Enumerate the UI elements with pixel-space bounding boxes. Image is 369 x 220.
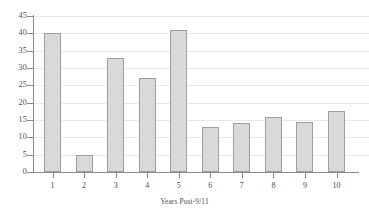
y-axis-tick-label: 10 <box>1 133 27 141</box>
y-axis-tick-label: 45 <box>1 12 27 20</box>
y-axis-tick-label: 0 <box>1 168 27 176</box>
y-axis-tick-label: 40 <box>1 29 27 37</box>
y-axis-tick <box>27 16 33 17</box>
x-axis-tick <box>305 173 306 178</box>
y-axis-tick <box>27 172 33 173</box>
y-axis-tick-label: 5 <box>1 151 27 159</box>
plot-area <box>33 16 369 172</box>
bar-chart: 051015202530354045 12345678910 Years Pos… <box>0 0 369 220</box>
x-axis-tick <box>116 173 117 178</box>
y-axis-tick-label: 20 <box>1 99 27 107</box>
x-axis-tick <box>337 173 338 178</box>
gridline <box>33 33 369 34</box>
bar <box>202 127 219 172</box>
x-axis-tick <box>273 173 274 178</box>
x-axis-tick-label: 6 <box>198 181 222 190</box>
x-axis-tick <box>242 173 243 178</box>
bar <box>296 122 313 172</box>
x-axis-tick <box>210 173 211 178</box>
y-axis-line <box>33 15 34 173</box>
bar <box>328 111 345 172</box>
bar <box>170 30 187 172</box>
y-axis-tick <box>27 85 33 86</box>
gridline <box>33 16 369 17</box>
y-axis-tick <box>27 103 33 104</box>
x-axis-tick-label: 4 <box>135 181 159 190</box>
gridline <box>33 103 369 104</box>
y-axis-tick-label: 30 <box>1 64 27 72</box>
y-axis-tick <box>27 51 33 52</box>
x-axis-tick <box>84 173 85 178</box>
bar <box>76 155 93 172</box>
gridline <box>33 68 369 69</box>
x-axis-line <box>33 172 359 173</box>
y-axis-tick <box>27 33 33 34</box>
x-axis-tick <box>179 173 180 178</box>
x-axis-tick-label: 1 <box>41 181 65 190</box>
y-axis-tick-label: 15 <box>1 116 27 124</box>
bar <box>139 78 156 172</box>
x-axis-tick <box>147 173 148 178</box>
y-axis-tick <box>27 155 33 156</box>
x-axis-tick-label: 2 <box>72 181 96 190</box>
bar <box>107 58 124 172</box>
y-axis-tick <box>27 68 33 69</box>
x-axis-tick-label: 7 <box>230 181 254 190</box>
x-axis-tick-label: 3 <box>104 181 128 190</box>
gridline <box>33 51 369 52</box>
x-axis-tick-label: 5 <box>167 181 191 190</box>
x-axis-title: Years Post-9/11 <box>0 197 369 206</box>
bar <box>44 33 61 172</box>
x-axis-tick-label: 10 <box>325 181 349 190</box>
bar <box>265 117 282 172</box>
y-axis-tick-label: 35 <box>1 47 27 55</box>
x-axis-tick-label: 8 <box>261 181 285 190</box>
x-axis-tick-label: 9 <box>293 181 317 190</box>
gridline <box>33 85 369 86</box>
y-axis-tick <box>27 137 33 138</box>
y-axis-tick-label: 25 <box>1 81 27 89</box>
x-axis-tick <box>53 173 54 178</box>
bar <box>233 123 250 172</box>
gridline <box>33 120 369 121</box>
y-axis-tick <box>27 120 33 121</box>
